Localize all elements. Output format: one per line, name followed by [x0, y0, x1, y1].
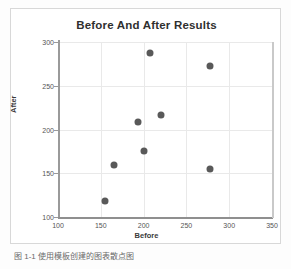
scatter-point: [147, 49, 154, 56]
gridline-horizontal: [58, 86, 272, 87]
y-axis-line: [58, 40, 60, 219]
x-tick-label: 150: [86, 222, 116, 229]
scatter-point: [206, 165, 213, 172]
x-tick-label: 200: [129, 222, 159, 229]
figure-caption: 图 1-1 使用模板创建的图表散点图: [14, 250, 274, 261]
plot-right-border: [272, 42, 274, 218]
x-axis-tick-labels: 100150200250300350: [58, 218, 273, 232]
y-tick-label: 150: [28, 170, 54, 177]
screenshot-root: Before And After Results 100150200250300…: [0, 0, 291, 269]
scatter-point: [140, 147, 147, 154]
scatter-point: [134, 118, 141, 125]
y-tick-label: 200: [28, 126, 54, 133]
x-axis-title: Before: [11, 231, 282, 240]
chart-figure: Before And After Results 100150200250300…: [10, 8, 281, 244]
x-tick-label: 100: [43, 222, 73, 229]
y-tick-label: 300: [28, 39, 54, 46]
y-axis-title: After: [9, 95, 18, 113]
y-tick-mark: [54, 130, 58, 131]
y-tick-mark: [54, 42, 58, 43]
scatter-point: [206, 62, 213, 69]
gridline-horizontal: [58, 130, 272, 131]
scatter-point: [102, 198, 109, 205]
x-tick-label: 350: [257, 222, 287, 229]
gridline-horizontal: [58, 173, 272, 174]
y-axis-tick-labels: 100150200250300: [21, 42, 54, 217]
scatter-point: [157, 111, 164, 118]
x-tick-label: 250: [171, 222, 201, 229]
gridline-horizontal: [58, 42, 272, 43]
y-tick-mark: [54, 173, 58, 174]
x-tick-label: 300: [214, 222, 244, 229]
y-tick-label: 250: [28, 82, 54, 89]
y-tick-label: 100: [28, 214, 54, 221]
y-tick-mark: [54, 86, 58, 87]
plot-area: [58, 42, 272, 217]
chart-title: Before And After Results: [11, 19, 282, 31]
scatter-point: [110, 161, 117, 168]
